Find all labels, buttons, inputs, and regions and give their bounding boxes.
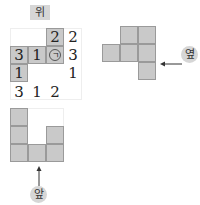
- side-cell: [102, 44, 120, 62]
- front-cell: [10, 144, 28, 162]
- circled-giyeok-marker: ㄱ: [49, 49, 61, 61]
- top-label: 위: [30, 5, 50, 20]
- front-cell: [46, 144, 64, 162]
- right-count: 3: [64, 46, 82, 64]
- front-cell: [10, 126, 28, 144]
- side-cell: [138, 26, 156, 44]
- side-cell: [120, 44, 138, 62]
- up-arrow-icon: [36, 166, 42, 186]
- side-label: 옆: [181, 46, 198, 63]
- top-cell-count: 2: [46, 28, 64, 46]
- bottom-count: 1: [28, 83, 46, 101]
- front-cell: [46, 126, 64, 144]
- right-count: 2: [64, 28, 82, 46]
- top-cell-count: 1: [10, 64, 28, 82]
- side-cell: [138, 62, 156, 80]
- side-cell: [120, 26, 138, 44]
- top-cell-count: 1: [28, 46, 46, 64]
- bottom-count: 2: [46, 83, 64, 101]
- front-cell: [10, 108, 28, 126]
- side-cell: [138, 44, 156, 62]
- bottom-count: 3: [10, 83, 28, 101]
- right-count: 1: [64, 64, 82, 82]
- top-cell-count: 3: [10, 46, 28, 64]
- front-label: 앞: [30, 186, 47, 203]
- front-cell: [28, 144, 46, 162]
